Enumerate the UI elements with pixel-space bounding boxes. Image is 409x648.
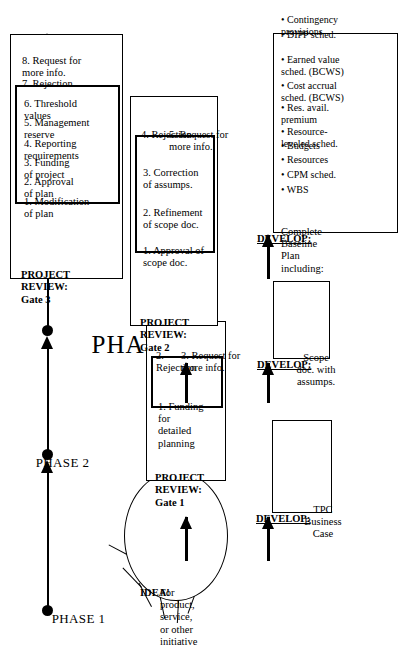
phase-3-review-header: PROJECT REVIEW: Gate 3: [21, 269, 93, 306]
phase-2-develop-body: Scope doc. with assumps.: [281, 352, 351, 389]
phase-1-review-header: PROJECT REVIEW: Gate 1: [155, 472, 225, 509]
idea-body: For product, service, or other initiativ…: [160, 587, 270, 648]
phase-3-develop-item-3: • Resources: [281, 154, 345, 166]
phase-3-develop-item-8: • Earned value sched. (BCWS): [281, 54, 367, 77]
phase-3-develop-item-2: • CPM sched.: [281, 169, 345, 181]
phase-3-develop-box: Complete Baseline Plan including: • WBS …: [273, 33, 398, 233]
phase-2-axis-line: [47, 346, 49, 455]
phase-1-develop-box: TPC Business Case: [272, 420, 332, 513]
phase-3-develop-item-6: • Res. avail. premium: [281, 102, 353, 125]
phase-1-axis-line: [47, 470, 49, 611]
phase-3-develop-item-1: • WBS: [281, 184, 341, 196]
phase-3-develop-item-7: • Cost accrual sched. (BCWS): [281, 80, 367, 103]
phase-3-review-item-6: 6. Threshold values: [24, 98, 90, 122]
phase-3-develop-item-10: • Contingency provisions: [281, 14, 357, 37]
phase-1-review-arrow: [180, 517, 193, 561]
phase-1-review-item-1: 1. Funding for detailed planning: [158, 401, 208, 450]
phase-3-develop-item-5: • Resource- leveled sched.: [281, 126, 359, 149]
phase-3-review-item-8: 8. Request for more info.: [22, 55, 86, 79]
phase-3-review-highlight-box: 1. Modification of plan 2. Approval of p…: [15, 85, 120, 204]
phase-3-review-box: PROJECT REVIEW: Gate 3 1. Modification o…: [10, 34, 123, 279]
phase-3-develop-intro: Complete Baseline Plan including:: [281, 226, 339, 275]
phase-2-review-item-3: 3. Correction of assumps.: [143, 167, 215, 191]
phase-2-review-arrow: [180, 363, 193, 403]
phase-2-review-box: PROJECT REVIEW: Gate 2 1. Approval of sc…: [130, 96, 218, 326]
phase-3-review-item-4: 4. Reporting requirements: [24, 138, 104, 162]
phase-2-review-item-5: 5. Request for more info.: [169, 129, 231, 153]
phase-2-review-item-2: 2. Refinement of scope doc.: [143, 207, 215, 231]
phase-2-review-item-1: 1. Approval of scope doc.: [143, 245, 209, 269]
phase-2-develop-box: Scope doc. with assumps.: [273, 281, 330, 359]
phase-1-develop-body: TPC Business Case: [281, 504, 365, 541]
phase-3-review-item-7: 7. Rejection: [22, 78, 76, 90]
phase-2-review-header: PROJECT REVIEW: Gate 2: [140, 317, 210, 354]
